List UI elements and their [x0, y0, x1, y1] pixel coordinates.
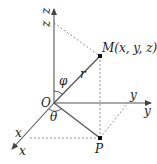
x-axis-label: x	[15, 126, 22, 140]
point-p-label: P	[94, 142, 104, 156]
x-axis-label-2: x	[19, 144, 26, 158]
radius-label: r	[80, 67, 87, 81]
theta-label: θ	[50, 110, 58, 124]
origin-label: O	[41, 96, 51, 110]
z-axis-label: z	[39, 7, 53, 15]
y-axis-label: y	[129, 88, 137, 102]
point-p-marker	[98, 136, 102, 140]
dashed-z-to-m	[54, 23, 100, 56]
projection-line	[54, 103, 100, 138]
spherical-coordinates-diagram: z z M(x, y, z) φ r O θ y y x x P	[0, 0, 157, 164]
phi-arc	[54, 91, 62, 94]
y-axis-label-2: y	[143, 104, 151, 118]
point-m-label: M(x, y, z)	[101, 41, 157, 55]
z-axis-label-2: z	[39, 20, 53, 28]
phi-label: φ	[59, 74, 68, 88]
dashed-p-to-y	[100, 103, 128, 138]
